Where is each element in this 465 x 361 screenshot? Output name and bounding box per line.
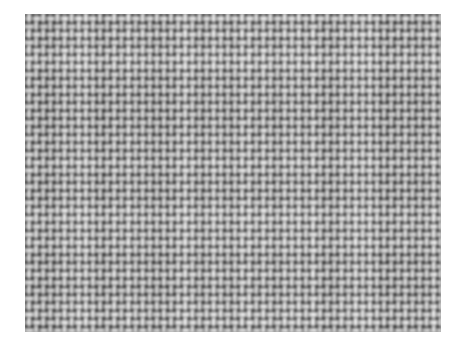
fabric-texture-image: <div class="noscript-fallback" data-name…	[25, 14, 441, 332]
image-root: <div class="noscript-fallback" data-name…	[0, 0, 465, 361]
fabric-texture-canvas	[25, 14, 441, 332]
